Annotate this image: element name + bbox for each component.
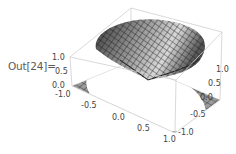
z-tick: 0.0 (52, 81, 65, 90)
x-tick: -1.0 (55, 90, 71, 99)
z-tick: 0.5 (55, 67, 68, 76)
x-tick: 0.5 (137, 124, 150, 133)
z-tick: 1.0 (52, 53, 65, 62)
y-tick: -1.0 (178, 128, 194, 137)
y-tick: 0.5 (208, 79, 221, 88)
x-tick: 0.0 (112, 113, 125, 122)
y-tick: -0.5 (190, 110, 206, 119)
z-axis-ticks: 1.0 0.5 0.0 (52, 53, 68, 90)
y-tick: 1.0 (216, 65, 229, 74)
y-tick: 0.0 (200, 93, 213, 102)
surface-plot-3d[interactable]: 1.0 0.5 0.0 -1.0 -0.5 0.0 0.5 1.0 1.0 0.… (0, 0, 236, 154)
x-tick: -0.5 (81, 101, 97, 110)
x-tick: 1.0 (163, 135, 176, 144)
